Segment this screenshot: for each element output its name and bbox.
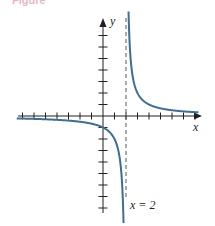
- curve-right-branch: [129, 11, 199, 112]
- asymptote-label: x = 2: [129, 198, 155, 212]
- x-axis-label: x: [192, 120, 199, 134]
- x-axis-arrow-icon: [194, 113, 202, 120]
- y-axis-arrow-icon: [100, 18, 107, 27]
- curve-left-branch: [17, 118, 124, 223]
- y-axis-label: y: [109, 14, 116, 28]
- axis-ticks: [23, 36, 196, 209]
- function-graph: x y x = 2: [0, 0, 215, 226]
